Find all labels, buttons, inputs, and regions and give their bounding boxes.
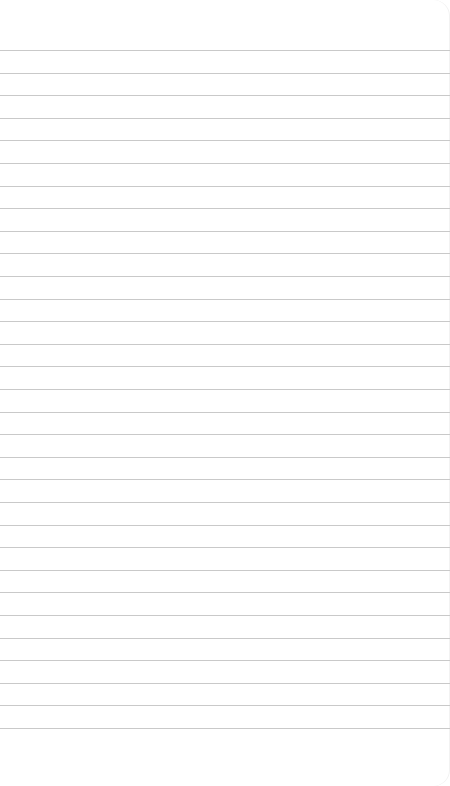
ruled-line xyxy=(0,660,450,661)
ruled-line xyxy=(0,366,450,367)
ruled-line xyxy=(0,683,450,684)
ruled-line xyxy=(0,570,450,571)
ruled-line xyxy=(0,705,450,706)
ruled-line xyxy=(0,186,450,187)
ruled-line xyxy=(0,276,450,277)
ruled-line xyxy=(0,231,450,232)
ruled-line xyxy=(0,163,450,164)
ruled-line xyxy=(0,208,450,209)
ruled-line xyxy=(0,253,450,254)
notepad-page[interactable] xyxy=(0,0,450,786)
ruled-line xyxy=(0,592,450,593)
ruled-line xyxy=(0,321,450,322)
ruled-line xyxy=(0,547,450,548)
ruled-line xyxy=(0,525,450,526)
ruled-line xyxy=(0,638,450,639)
ruled-line xyxy=(0,457,450,458)
ruled-line xyxy=(0,479,450,480)
ruled-line xyxy=(0,95,450,96)
ruled-line xyxy=(0,140,450,141)
ruled-line xyxy=(0,502,450,503)
ruled-line xyxy=(0,50,450,51)
ruled-line xyxy=(0,299,450,300)
ruled-line xyxy=(0,412,450,413)
ruled-line xyxy=(0,615,450,616)
ruled-line xyxy=(0,73,450,74)
ruled-line xyxy=(0,728,450,729)
ruled-line xyxy=(0,389,450,390)
ruled-line xyxy=(0,118,450,119)
ruled-line xyxy=(0,344,450,345)
ruled-line xyxy=(0,434,450,435)
